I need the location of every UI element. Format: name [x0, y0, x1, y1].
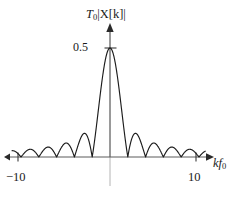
x-axis-label-subscript: 0	[222, 161, 226, 171]
y-axis-label-magnitude: |X[k]|	[97, 7, 126, 21]
spectrum-curve	[12, 48, 205, 157]
y-axis-label: T0|X[k]|	[86, 8, 126, 22]
y-tick-label-half: 0.5	[73, 41, 88, 53]
x-tick-label-ten: 10	[188, 171, 201, 184]
x-axis-label: kf0	[213, 157, 226, 171]
y-axis-label-t: T	[86, 7, 93, 21]
x-axis-left-arrowhead	[4, 154, 10, 161]
x-tick-label-minus-ten: −10	[6, 171, 26, 184]
y-axis-top-arrowhead	[106, 23, 113, 32]
spectrum-plot-svg	[0, 0, 250, 203]
spectrum-figure: T0|X[k]| 0.5 kf0 −10 10	[0, 0, 250, 203]
x-axis-label-kf: kf	[213, 156, 222, 170]
